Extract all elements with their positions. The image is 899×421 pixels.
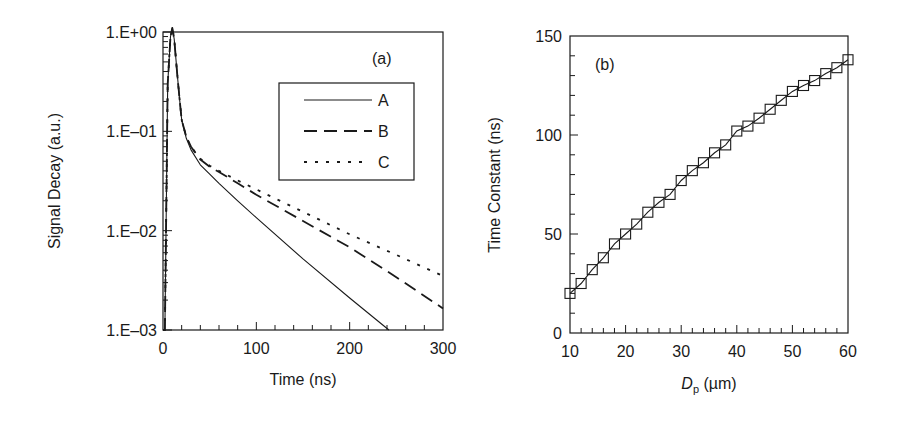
panel-b-tick-labels: 102030405060050100150 <box>535 28 857 360</box>
panel-b-x-axis-label: Dp (µm) <box>681 375 736 395</box>
figure-canvas: 01002003001.E+001.E–011.E–021.E–03 (a) A… <box>0 0 899 421</box>
y-tick-label: 150 <box>535 28 562 45</box>
y-tick-label: 1.E–02 <box>106 223 157 240</box>
x-tick-label: 300 <box>430 340 457 357</box>
panel-b-curve <box>570 60 848 294</box>
figure: 01002003001.E+001.E–011.E–021.E–03 (a) A… <box>0 0 899 421</box>
x-tick-label: 0 <box>159 340 168 357</box>
panel-b-x-axis-unit: (µm) <box>699 375 737 392</box>
panel-b-x-axis-symbol: D <box>681 375 693 392</box>
panel-b-time-constant-chart: 102030405060050100150 (b) Dp (µm) Time C… <box>486 28 857 395</box>
panel-a-tick-labels: 01002003001.E+001.E–011.E–021.E–03 <box>106 24 457 357</box>
legend-label-c: C <box>378 154 390 171</box>
panel-b-label: (b) <box>595 56 615 73</box>
x-tick-label: 10 <box>561 343 579 360</box>
panel-a-signal-decay-chart: 01002003001.E+001.E–011.E–021.E–03 (a) A… <box>46 24 456 388</box>
panel-a-label: (a) <box>372 50 392 67</box>
time-constant-line <box>570 60 848 294</box>
legend-label-b: B <box>378 123 389 140</box>
panel-b-markers <box>565 55 853 299</box>
x-tick-label: 20 <box>617 343 635 360</box>
x-tick-label: 100 <box>243 340 270 357</box>
panel-a-plot-frame <box>163 32 443 330</box>
y-tick-label: 0 <box>553 325 562 342</box>
y-tick-label: 50 <box>544 226 562 243</box>
y-tick-label: 1.E–01 <box>106 123 157 140</box>
y-tick-label: 100 <box>535 127 562 144</box>
x-tick-label: 30 <box>672 343 690 360</box>
y-tick-label: 1.E+00 <box>106 24 157 41</box>
x-tick-label: 200 <box>336 340 363 357</box>
panel-a-axis-ticks <box>163 32 424 330</box>
legend-label-a: A <box>378 92 389 109</box>
panel-b-y-axis-label: Time Constant (ns) <box>486 117 503 252</box>
x-tick-label: 60 <box>839 343 857 360</box>
legend: A B C <box>279 83 414 180</box>
y-tick-label: 1.E–03 <box>106 322 157 339</box>
x-tick-label: 40 <box>728 343 746 360</box>
panel-b-axis-ticks <box>570 56 837 333</box>
panel-a-y-axis-label: Signal Decay (a.u.) <box>46 113 63 249</box>
x-tick-label: 50 <box>784 343 802 360</box>
panel-a-x-axis-label: Time (ns) <box>270 371 337 388</box>
